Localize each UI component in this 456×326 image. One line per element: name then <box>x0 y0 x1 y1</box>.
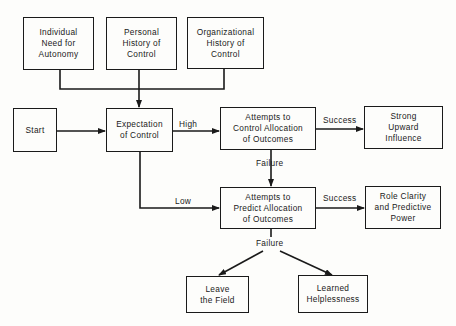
node-strong-influence: Strong Upward Influence <box>364 106 443 149</box>
node-role-clarity: Role Clarity and Predictive Power <box>365 186 441 229</box>
node-need-autonomy: Individual Need for Autonomy <box>23 17 94 70</box>
node-personal-history: Personal History of Control <box>106 17 177 70</box>
node-predict-attempts: Attempts to Predict Allocation of Outcom… <box>220 187 316 229</box>
edge-label-success-control: Success <box>323 115 356 125</box>
node-start: Start <box>13 108 57 152</box>
node-control-attempts: Attempts to Control Allocation of Outcom… <box>220 107 316 150</box>
node-learned-helplessness: Learned Helplessness <box>298 275 368 313</box>
edge-label-success-predict: Success <box>323 193 356 203</box>
node-org-history: Organizational History of Control <box>187 17 264 69</box>
edge-label-failure-predict: Failure <box>256 238 283 248</box>
edge-label-failure-control: Failure <box>256 158 283 168</box>
edge-label-high: High <box>179 119 197 129</box>
edge-label-low: Low <box>175 196 191 206</box>
node-expectation: Expectation of Control <box>106 108 173 152</box>
node-leave-field: Leave the Field <box>186 276 249 313</box>
